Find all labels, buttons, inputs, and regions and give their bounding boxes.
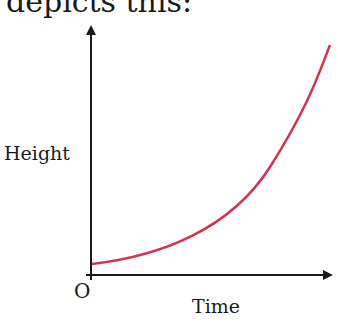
x-axis-label: Time (192, 295, 240, 317)
chart-plot (0, 0, 338, 329)
series-line (92, 45, 330, 264)
origin-label: O (74, 279, 90, 303)
y-axis-label: Height (4, 142, 70, 164)
